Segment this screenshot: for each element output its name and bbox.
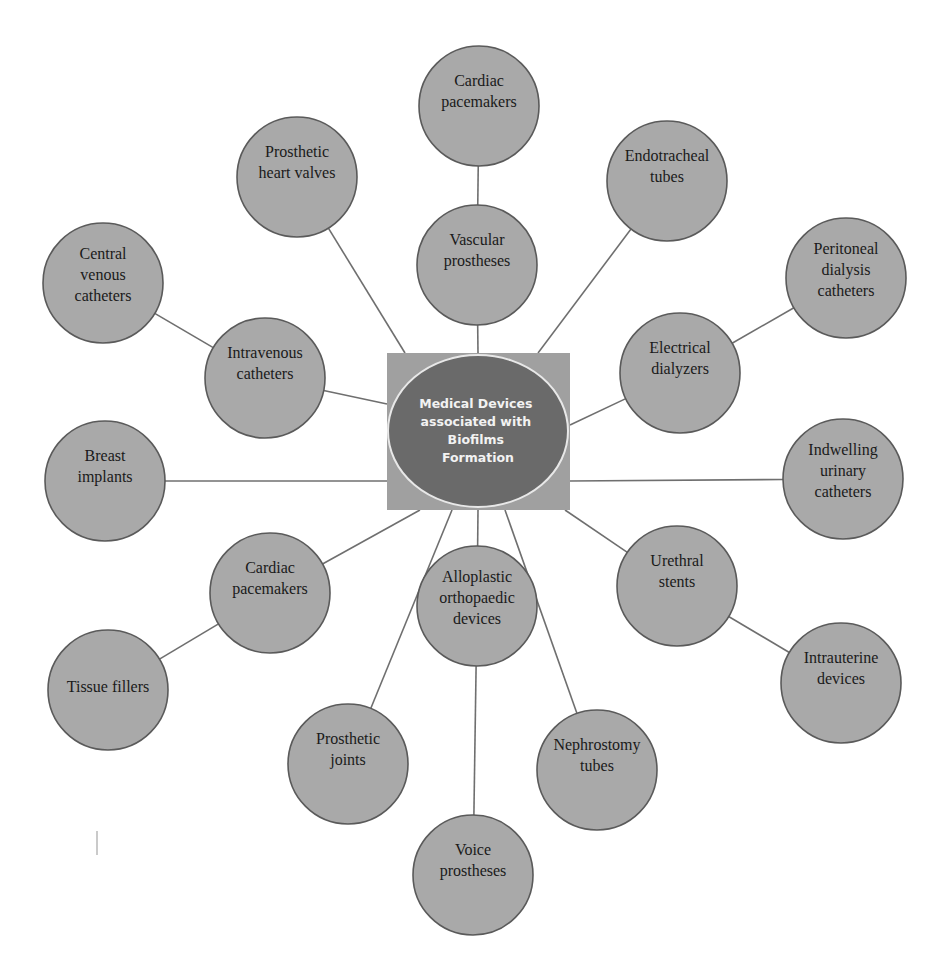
node-tissue-fillers: Tissue fillers bbox=[48, 630, 168, 750]
center-title-line: Biofilms bbox=[448, 432, 504, 447]
node-label-line: Vascular bbox=[449, 231, 505, 248]
node-label-line: catheters bbox=[75, 287, 132, 304]
node-label-line: venous bbox=[80, 266, 125, 283]
node-label-line: catheters bbox=[237, 365, 294, 382]
node-label-line: catheters bbox=[818, 282, 875, 299]
node-breast-implants: Breastimplants bbox=[45, 421, 165, 541]
node-label-line: Indwelling bbox=[808, 441, 877, 459]
edge-urethral-stents-to-intrauterine-devices bbox=[729, 617, 790, 653]
edge-center-to-intravenous-catheters bbox=[324, 391, 387, 404]
node-urethral-stents: Urethralstents bbox=[617, 526, 737, 646]
node-label-line: prostheses bbox=[440, 862, 507, 880]
node-label-line: pacemakers bbox=[232, 580, 308, 598]
node-prosthetic-joints: Prostheticjoints bbox=[288, 704, 408, 824]
node-label: Tissue fillers bbox=[67, 678, 150, 695]
node-label-line: tubes bbox=[580, 757, 614, 774]
node-label-line: dialyzers bbox=[651, 360, 709, 378]
node-label-line: Cardiac bbox=[454, 72, 504, 89]
node-electrical-dialyzers: Electricaldialyzers bbox=[620, 313, 740, 433]
node-voice-prostheses: Voiceprostheses bbox=[413, 815, 533, 935]
node-cardiac-pacemakers-top: Cardiacpacemakers bbox=[419, 46, 539, 166]
edge-center-to-cardiac-pacemakers-left bbox=[322, 510, 420, 564]
node-endotracheal-tubes: Endotrachealtubes bbox=[607, 121, 727, 241]
edge-alloplastic-orthopaedic-devices-to-voice-prostheses bbox=[474, 666, 476, 815]
node-cardiac-pacemakers-left: Cardiacpacemakers bbox=[210, 533, 330, 653]
node-label-line: Voice bbox=[455, 841, 491, 858]
node-label-line: pacemakers bbox=[441, 93, 517, 111]
node-label-line: Electrical bbox=[649, 339, 711, 356]
node-label-line: heart valves bbox=[259, 164, 336, 181]
node-label-line: Endotracheal bbox=[625, 147, 710, 164]
edge-electrical-dialyzers-to-peritoneal-dialysis-catheters bbox=[732, 308, 794, 343]
center-node: Medical Devices associated with Biofilms… bbox=[387, 353, 570, 510]
biofilm-devices-diagram: Medical Devices associated with Biofilms… bbox=[0, 0, 944, 974]
node-label: Peritonealdialysiscatheters bbox=[814, 240, 879, 299]
node-label-line: devices bbox=[817, 670, 865, 687]
node-indwelling-urinary-catheters: Indwellingurinarycatheters bbox=[783, 419, 903, 539]
node-central-venous-catheters: Centralvenouscatheters bbox=[43, 223, 163, 343]
center-title-line: Formation bbox=[442, 450, 514, 465]
node-label-line: Alloplastic bbox=[442, 568, 512, 586]
node-alloplastic-orthopaedic-devices: Alloplasticorthopaedicdevices bbox=[417, 546, 537, 666]
node-label-line: Tissue fillers bbox=[67, 678, 150, 695]
node-label-line: Peritoneal bbox=[814, 240, 879, 257]
node-nephrostomy-tubes: Nephrostomytubes bbox=[537, 710, 657, 830]
node-label-line: Nephrostomy bbox=[553, 736, 640, 754]
node-label-line: devices bbox=[453, 610, 501, 627]
node-label-line: Intrauterine bbox=[804, 649, 879, 666]
node-label-line: implants bbox=[77, 468, 132, 486]
node-label-line: Prosthetic bbox=[265, 143, 329, 160]
edge-intravenous-catheters-to-central-venous-catheters bbox=[155, 313, 213, 347]
node-intravenous-catheters: Intravenouscatheters bbox=[205, 318, 325, 438]
node-label-line: urinary bbox=[820, 462, 866, 480]
node-label-line: Breast bbox=[85, 447, 126, 464]
node-label-line: Cardiac bbox=[245, 559, 295, 576]
node-circle bbox=[783, 419, 903, 539]
node-circle bbox=[417, 546, 537, 666]
node-label-line: Intravenous bbox=[227, 344, 303, 361]
node-vascular-prostheses: Vascularprostheses bbox=[417, 205, 537, 325]
center-title-line: associated with bbox=[421, 414, 532, 429]
node-label: Centralvenouscatheters bbox=[75, 245, 132, 304]
node-label-line: stents bbox=[659, 573, 695, 590]
edge-cardiac-pacemakers-left-to-tissue-fillers bbox=[159, 624, 218, 659]
node-label-line: Prosthetic bbox=[316, 730, 380, 747]
node-label-line: joints bbox=[329, 751, 366, 769]
edge-center-to-prosthetic-heart-valves bbox=[328, 228, 405, 353]
node-label-line: catheters bbox=[815, 483, 872, 500]
node-label-line: tubes bbox=[650, 168, 684, 185]
node-peritoneal-dialysis-catheters: Peritonealdialysiscatheters bbox=[786, 218, 906, 338]
node-intrauterine-devices: Intrauterinedevices bbox=[781, 623, 901, 743]
edge-center-to-indwelling-urinary-catheters bbox=[570, 479, 783, 481]
node-prosthetic-heart-valves: Prostheticheart valves bbox=[237, 117, 357, 237]
edge-center-to-endotracheal-tubes bbox=[538, 229, 631, 353]
center-ellipse bbox=[388, 355, 568, 507]
node-label-line: prostheses bbox=[444, 252, 511, 270]
node-circle bbox=[43, 223, 163, 343]
node-label-line: Central bbox=[79, 245, 127, 262]
edge-center-to-electrical-dialyzers bbox=[570, 399, 626, 425]
center-title-line: Medical Devices bbox=[419, 396, 532, 411]
node-label-line: dialysis bbox=[822, 261, 871, 279]
node-label-line: Urethral bbox=[650, 552, 704, 569]
node-circle bbox=[786, 218, 906, 338]
edge-center-to-urethral-stents bbox=[565, 510, 627, 552]
node-label-line: orthopaedic bbox=[439, 589, 515, 607]
